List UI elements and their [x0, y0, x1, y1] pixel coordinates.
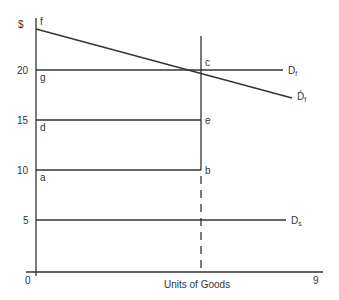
point-c: c — [205, 57, 210, 68]
label-ds: Ds — [291, 215, 302, 227]
y-unit-label: $ — [18, 19, 24, 30]
point-b: b — [205, 165, 211, 176]
demand-curve-d-prime-f — [36, 29, 292, 98]
label-df: Df — [288, 65, 297, 77]
label-d-prime-f: D́f — [297, 90, 306, 103]
y-tick-15: 15 — [17, 115, 29, 126]
x-axis-title: Units of Goods — [164, 279, 230, 290]
economics-chart: $ 20 15 10 5 0 9 Units of Goods f g c d … — [0, 0, 339, 300]
x-tick-9: 9 — [313, 275, 319, 286]
y-tick-20: 20 — [17, 65, 29, 76]
point-f: f — [40, 16, 43, 27]
point-g: g — [40, 72, 46, 83]
point-a: a — [40, 172, 46, 183]
origin-label: 0 — [25, 275, 31, 286]
point-e: e — [205, 115, 211, 126]
point-d: d — [40, 122, 46, 133]
y-tick-5: 5 — [23, 215, 29, 226]
y-tick-10: 10 — [17, 165, 29, 176]
